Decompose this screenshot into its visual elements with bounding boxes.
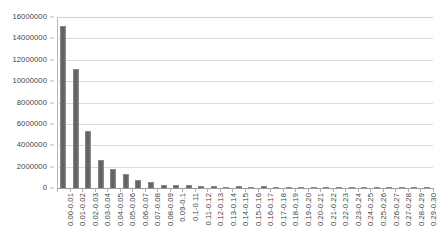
bar-slot <box>82 17 95 188</box>
bar-slot <box>145 17 158 188</box>
x-tick-label: 0.12-0.13 <box>217 193 225 226</box>
x-tick-mark <box>258 188 259 192</box>
x-tick-label: 0.03-0.04 <box>104 193 112 226</box>
bar-slot <box>70 17 83 188</box>
x-tick-label: 0.07-0.08 <box>154 193 162 226</box>
y-tick-label: 8000000 <box>17 99 47 107</box>
x-tick-label: 0.27-0.28 <box>405 193 413 226</box>
bar-slot <box>308 17 321 188</box>
x-tick-label: 0.1-0.11 <box>192 193 200 221</box>
y-tick-label: 4000000 <box>17 141 47 149</box>
x-tick-mark <box>207 188 208 192</box>
x-tick-mark <box>195 188 196 192</box>
bar-slot <box>120 17 133 188</box>
bar-series <box>57 17 433 188</box>
x-tick-mark <box>82 188 83 192</box>
bar[interactable] <box>110 169 116 188</box>
bar-slot <box>170 17 183 188</box>
x-tick-mark <box>333 188 334 192</box>
bar-slot <box>207 17 220 188</box>
x-tick-label: 0.18-0.19 <box>292 193 300 226</box>
x-tick-label: 0.21-0.22 <box>330 193 338 226</box>
x-tick-mark <box>433 188 434 192</box>
x-tick-label: 0.09-0.1 <box>179 193 187 222</box>
bar[interactable] <box>98 160 104 188</box>
x-tick-label: 0.04-0.05 <box>117 193 125 226</box>
x-tick-label: 0.16-0.17 <box>267 193 275 226</box>
bar-slot <box>333 17 346 188</box>
x-tick-mark <box>120 188 121 192</box>
y-tick-mark <box>50 145 54 146</box>
y-tick-label: 10000000 <box>12 77 47 85</box>
x-tick-label: 0.11-0.12 <box>205 193 213 225</box>
bar-slot <box>258 17 271 188</box>
x-tick-mark <box>308 188 309 192</box>
x-tick-label: 0.01-0.02 <box>79 193 87 226</box>
bar-slot <box>320 17 333 188</box>
histogram-chart: 0200000040000006000000800000010000000120… <box>0 0 448 244</box>
x-tick-label: 0.22-0.23 <box>342 193 350 226</box>
bar-slot <box>157 17 170 188</box>
bar[interactable] <box>85 131 91 188</box>
bar-slot <box>283 17 296 188</box>
x-tick-label: 0.25-0.26 <box>380 193 388 226</box>
bar-slot <box>383 17 396 188</box>
x-axis: 0.00-0.010.01-0.020.02-0.030.03-0.040.04… <box>57 193 433 244</box>
bar-slot <box>182 17 195 188</box>
bar-slot <box>245 17 258 188</box>
x-tick-label: 0.00-0.01 <box>67 193 75 226</box>
x-tick-mark <box>107 188 108 192</box>
x-tick-label: 0.06-0.07 <box>142 193 150 226</box>
y-tick-label: 16000000 <box>12 13 47 21</box>
y-tick-mark <box>50 81 54 82</box>
x-tick-mark <box>245 188 246 192</box>
x-tick-label: 0.20-0.21 <box>317 193 325 226</box>
x-tick-mark <box>358 188 359 192</box>
bar-slot <box>408 17 421 188</box>
x-tick-mark <box>95 188 96 192</box>
y-tick-mark <box>50 17 54 18</box>
y-tick-label: 14000000 <box>12 34 47 42</box>
x-tick-label: 0.02-0.03 <box>92 193 100 226</box>
bar[interactable] <box>73 69 79 188</box>
y-tick-label: 6000000 <box>17 120 47 128</box>
x-tick-mark <box>182 188 183 192</box>
bar-slot <box>358 17 371 188</box>
y-tick-mark <box>50 102 54 103</box>
x-tick-mark <box>220 188 221 192</box>
bar[interactable] <box>123 174 129 188</box>
y-tick-label: 12000000 <box>12 56 47 64</box>
y-tick-mark <box>50 188 54 189</box>
bar-slot <box>195 17 208 188</box>
x-tick-mark <box>270 188 271 192</box>
x-tick-mark <box>420 188 421 192</box>
bar[interactable] <box>60 26 66 188</box>
bar-slot <box>232 17 245 188</box>
x-tick-mark <box>157 188 158 192</box>
y-tick-label: 0 <box>43 184 47 192</box>
x-tick-mark <box>132 188 133 192</box>
x-tick-mark <box>383 188 384 192</box>
y-tick-label: 2000000 <box>17 163 47 171</box>
x-tick-mark <box>170 188 171 192</box>
x-tick-label: 0.17-0.18 <box>280 193 288 226</box>
x-tick-mark <box>232 188 233 192</box>
x-tick-label: 0.13-0.14 <box>230 193 238 226</box>
bar-slot <box>270 17 283 188</box>
y-tick-mark <box>50 38 54 39</box>
x-tick-mark <box>145 188 146 192</box>
x-tick-mark <box>283 188 284 192</box>
bar[interactable] <box>135 180 141 188</box>
bar-slot <box>295 17 308 188</box>
x-tick-mark <box>370 188 371 192</box>
x-tick-label: 0.15-0.16 <box>255 193 263 226</box>
bar-slot <box>220 17 233 188</box>
x-tick-label: 0.05-0.06 <box>129 193 137 226</box>
x-tick-mark <box>345 188 346 192</box>
y-tick-mark <box>50 166 54 167</box>
x-tick-mark <box>320 188 321 192</box>
x-tick-label: 0.29-0.30 <box>430 193 438 226</box>
x-tick-label: 0.26-0.27 <box>393 193 401 226</box>
bar-slot <box>57 17 70 188</box>
x-tick-mark <box>395 188 396 192</box>
